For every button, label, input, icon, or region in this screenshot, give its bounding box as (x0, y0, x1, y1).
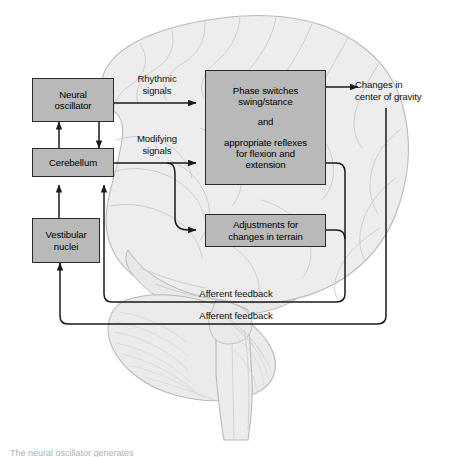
box-adjustments[interactable]: Adjustments for changes in terrain (205, 214, 326, 247)
figure-container: Neural oscillator Cerebellum Vestibular … (0, 0, 451, 457)
modifying-signals-line-1: Modifying (126, 133, 188, 145)
figure-caption: The neural oscillator generates (10, 448, 134, 457)
connector-modifying-signals-lower (167, 163, 196, 230)
box-phase-switches[interactable]: Phase switches swing/stance and appropri… (205, 70, 326, 185)
neural-oscillator-line-1: Neural (33, 89, 113, 100)
rhythmic-signals-line-2: signals (126, 85, 188, 97)
phase-switches-line-4: appropriate reflexes (206, 137, 325, 148)
phase-switches-line-3: and (206, 116, 325, 127)
center-of-gravity-line-2: center of gravity (355, 91, 447, 103)
neural-oscillator-line-2: oscillator (33, 100, 113, 111)
center-of-gravity-line-1: Changes in (355, 79, 447, 91)
phase-switches-line-2: swing/stance (206, 96, 325, 107)
connector-adjustments-afferent-feedback (326, 230, 345, 239)
vestibular-nuclei-line-1: Vestibular (33, 229, 99, 240)
label-changes-in-center-of-gravity: Changes in center of gravity (355, 79, 447, 102)
modifying-signals-line-2: signals (126, 145, 188, 157)
box-neural-oscillator[interactable]: Neural oscillator (32, 78, 114, 122)
phase-switches-spacer (206, 107, 325, 116)
label-afferent-feedback-upper: Afferent feedback (176, 288, 296, 300)
cerebellum-line-1: Cerebellum (33, 157, 113, 168)
box-vestibular-nuclei[interactable]: Vestibular nuclei (32, 218, 100, 263)
adjustments-line-1: Adjustments for (206, 219, 325, 230)
phase-switches-line-5: for flexion and (206, 148, 325, 159)
vestibular-nuclei-line-2: nuclei (33, 241, 99, 252)
rhythmic-signals-line-1: Rhythmic (126, 73, 188, 85)
phase-switches-line-6: extension (206, 159, 325, 170)
box-cerebellum[interactable]: Cerebellum (32, 148, 114, 177)
label-modifying-signals: Modifying signals (126, 133, 188, 156)
phase-switches-line-1: Phase switches (206, 85, 325, 96)
adjustments-line-2: changes in terrain (206, 231, 325, 242)
phase-switches-spacer-2 (206, 128, 325, 137)
label-afferent-feedback-lower: Afferent feedback (176, 310, 296, 322)
label-rhythmic-signals: Rhythmic signals (126, 73, 188, 96)
